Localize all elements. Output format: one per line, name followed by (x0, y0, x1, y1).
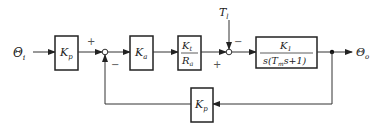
junction1-minus: − (111, 59, 119, 70)
summing-junction-2 (226, 49, 232, 55)
kt-ra-block: Kt Ra (178, 36, 201, 70)
ka-block: Ka (130, 36, 153, 70)
junction2-minus: − (234, 36, 242, 47)
kp-feedback-block: Kp (191, 88, 213, 122)
summing-junction-1 (102, 49, 108, 55)
svg-text:s(Tms+1): s(Tms+1) (263, 55, 307, 67)
output-label: Θo (356, 46, 369, 61)
plant-block: K1 s(Tms+1) (256, 37, 317, 68)
block-diagram: Θi Kp + − Ka Kt Ra + − Tl K1 s(Tms+1 (0, 0, 389, 129)
kp-forward-block: Kp (55, 36, 78, 70)
input-label: Θi (13, 46, 26, 62)
junction2-plus: + (213, 59, 221, 70)
disturbance-label: Tl (219, 6, 229, 21)
junction1-plus: + (87, 36, 95, 47)
